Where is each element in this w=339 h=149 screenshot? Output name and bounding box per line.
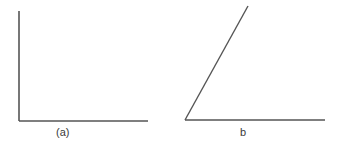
figure-a-label: (a) xyxy=(56,127,69,138)
figure-b-slanted-line xyxy=(185,6,248,120)
figure-b-acute-angle xyxy=(185,6,325,120)
figure-b-label: b xyxy=(240,127,246,138)
diagram-canvas xyxy=(0,0,339,149)
figure-a-right-angle xyxy=(19,11,148,121)
